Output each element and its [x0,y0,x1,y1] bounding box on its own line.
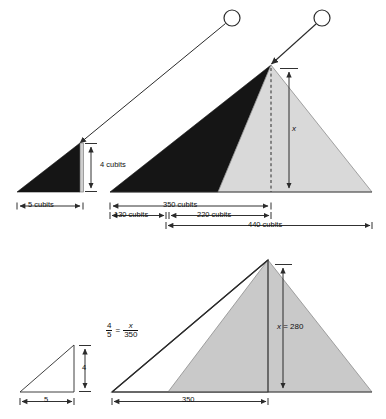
label-small-base: 5 [44,396,48,404]
label-small-height: 4 [82,364,86,372]
equation-left-numerator: 4 [106,322,112,330]
sun-ray-right [272,24,317,64]
equation-right-denominator: 350 [123,330,138,339]
label-stick-height: 4 cubits [100,161,126,169]
label-half-base: 220 cubits [197,211,231,219]
sun-icon-left [224,10,240,26]
label-full-base: 440 cubits [248,221,282,229]
label-large-base: 350 [182,396,195,404]
small-similar-triangle [20,345,74,392]
label-stick-shadow: 5 cubits [28,201,54,209]
equation-right-fraction: x 350 [123,322,138,340]
label-pyramid-height-x: x [292,125,296,133]
label-height-280-value: = 280 [281,322,303,331]
label-pyramid-shadow: 350 cubits [163,201,197,209]
label-shadow-outside: 130 cubits [114,211,148,219]
stick-shadow-triangle [17,143,80,192]
vertical-stick [80,143,84,192]
sun-icon-right [314,10,330,26]
proportion-equation: 4 5 = x 350 [106,322,138,340]
label-height-280: x = 280 [277,323,303,331]
equation-left-denominator: 5 [106,330,112,339]
pyramid-bottom [168,260,372,392]
equation-left-fraction: 4 5 [106,322,112,340]
equation-right-numerator: x [128,322,134,330]
equation-equals: = [114,326,121,335]
similar-triangles-diagram [0,0,386,419]
